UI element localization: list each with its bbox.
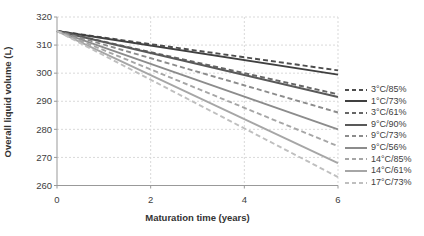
y-tick-label: 300 [36, 67, 52, 78]
legend: 3°C/85%1°C/73%3°C/61%9°C/90%9°C/73%9°C/5… [345, 84, 424, 188]
series-line-9-c-73- [57, 31, 338, 112]
y-tick-label: 280 [36, 124, 52, 135]
legend-swatch [345, 98, 367, 104]
legend-swatch [345, 145, 367, 151]
legend-label: 9°C/73% [371, 130, 407, 142]
legend-item: 14°C/85% [345, 154, 424, 166]
legend-item: 3°C/61% [345, 107, 424, 119]
legend-label: 17°C/73% [371, 177, 412, 189]
x-axis-title: Maturation time (years) [57, 212, 338, 223]
y-tick-label: 260 [36, 180, 52, 191]
legend-item: 17°C/73% [345, 177, 424, 189]
y-tick-label: 270 [36, 152, 52, 163]
legend-swatch [345, 180, 367, 186]
legend-item: 9°C/56% [345, 142, 424, 154]
legend-swatch [345, 110, 367, 116]
legend-swatch [345, 122, 367, 128]
legend-swatch [345, 168, 367, 174]
legend-swatch [345, 133, 367, 139]
y-tick-label: 310 [36, 39, 52, 50]
legend-item: 3°C/85% [345, 84, 424, 96]
legend-item: 9°C/73% [345, 130, 424, 142]
y-axis-title: Overall liquid volume (L) [2, 22, 16, 182]
x-tick-label: 2 [148, 194, 153, 205]
legend-label: 14°C/61% [371, 165, 412, 177]
y-tick-label: 290 [36, 95, 52, 106]
x-tick-label: 0 [54, 194, 59, 205]
series-line-14-c-61- [57, 31, 338, 163]
legend-item: 14°C/61% [345, 165, 424, 177]
series-line-9-c-56- [57, 31, 338, 129]
legend-swatch [345, 87, 367, 93]
legend-item: 1°C/73% [345, 96, 424, 108]
legend-swatch [345, 156, 367, 162]
legend-item: 9°C/90% [345, 119, 424, 131]
legend-label: 14°C/85% [371, 154, 412, 166]
legend-label: 3°C/85% [371, 84, 407, 96]
x-tick-label: 6 [335, 194, 340, 205]
series-line-1-c-73- [57, 31, 338, 75]
legend-label: 1°C/73% [371, 96, 407, 108]
line-chart-figure: 2602702802903003103200246 Overall liquid… [0, 0, 424, 236]
legend-label: 3°C/61% [371, 107, 407, 119]
x-tick-label: 4 [242, 194, 247, 205]
legend-label: 9°C/90% [371, 119, 407, 131]
y-tick-label: 320 [36, 11, 52, 22]
legend-label: 9°C/56% [371, 142, 407, 154]
